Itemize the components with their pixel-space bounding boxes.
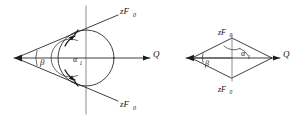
left-upper-force-line (16, 15, 118, 58)
left-alpha-label: α (73, 55, 78, 64)
left-diagram: zF 0 zF 0 Q β α 1 (14, 6, 160, 114)
left-q-label: Q (153, 49, 160, 59)
vector-diagram-svg: zF 0 zF 0 Q β α 1 (0, 0, 299, 120)
right-lower-force-label: zF (217, 85, 226, 94)
left-q-arrowhead (143, 55, 150, 60)
right-q-arrowhead (273, 55, 280, 60)
right-beta-label: β (204, 59, 209, 68)
left-upper-force-label-sub: 0 (133, 12, 136, 18)
right-lower-force-label-sub: 0 (230, 89, 233, 95)
left-vertex-arrowhead (14, 55, 22, 62)
left-lower-force-label-sub: 0 (133, 105, 136, 111)
left-upper-force-label: zF (119, 6, 130, 16)
figure-container: zF 0 zF 0 Q β α 1 (0, 0, 299, 120)
left-beta-label: β (39, 57, 45, 67)
right-upper-force-label-sub: 0 (230, 32, 233, 38)
right-diagram: zF 0 zF 0 Q β α 1 (186, 28, 290, 95)
right-alpha-label-sub: 1 (248, 54, 251, 60)
right-upper-force-label: zF (217, 28, 226, 37)
left-lower-force-label: zF (119, 99, 130, 109)
right-q-label: Q (283, 49, 290, 59)
left-lower-force-line (16, 58, 118, 101)
right-alpha-label: α (241, 49, 246, 58)
left-alpha-label-sub: 1 (80, 60, 83, 66)
